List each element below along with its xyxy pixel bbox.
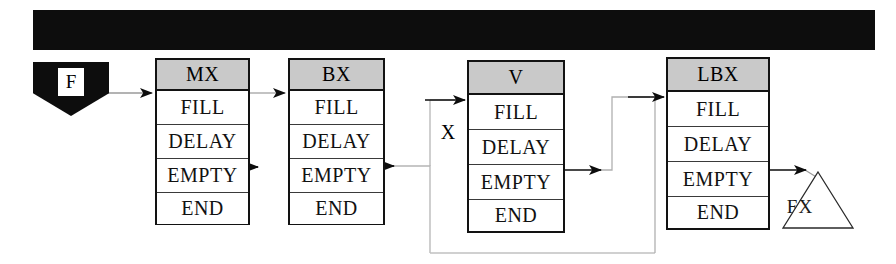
- process-box-mx-row-delay[interactable]: DELAY: [157, 125, 248, 159]
- process-box-bx-row-empty[interactable]: EMPTY: [290, 159, 383, 193]
- process-box-v-row-end[interactable]: END: [469, 200, 563, 231]
- process-box-bx[interactable]: BX FILL DELAY EMPTY END: [288, 58, 385, 225]
- process-box-lbx-row-end[interactable]: END: [668, 197, 768, 228]
- sink-node-fx-label: FX: [787, 196, 813, 218]
- process-box-mx[interactable]: MX FILL DELAY EMPTY END: [155, 58, 250, 225]
- process-box-v-row-empty[interactable]: EMPTY: [469, 165, 563, 200]
- source-node-f-label: F: [33, 68, 109, 96]
- edge-v-to-lbx: [565, 97, 664, 170]
- process-box-v[interactable]: V FILL DELAY EMPTY END: [467, 60, 565, 233]
- process-box-v-row-fill[interactable]: FILL: [469, 95, 563, 130]
- process-box-bx-header: BX: [290, 60, 383, 91]
- process-box-lbx-row-delay[interactable]: DELAY: [668, 127, 768, 162]
- process-box-mx-row-fill[interactable]: FILL: [157, 91, 248, 125]
- process-box-v-row-delay[interactable]: DELAY: [469, 130, 563, 165]
- process-box-lbx-row-fill[interactable]: FILL: [668, 92, 768, 127]
- process-box-bx-row-end[interactable]: END: [290, 193, 383, 224]
- process-box-v-header: V: [469, 62, 563, 95]
- process-box-lbx-header: LBX: [668, 59, 768, 92]
- title-bar-label: X: [434, 119, 462, 146]
- diagram-canvas: X F MX FILL DELAY EMPTY END BX FILL DELA…: [0, 0, 896, 264]
- process-box-lbx[interactable]: LBX FILL DELAY EMPTY END: [666, 57, 770, 230]
- process-box-mx-row-empty[interactable]: EMPTY: [157, 159, 248, 193]
- process-box-mx-header: MX: [157, 60, 248, 91]
- title-bar: [33, 10, 875, 50]
- process-box-mx-row-end[interactable]: END: [157, 193, 248, 224]
- process-box-bx-row-delay[interactable]: DELAY: [290, 125, 383, 159]
- process-box-lbx-row-empty[interactable]: EMPTY: [668, 162, 768, 197]
- process-box-bx-row-fill[interactable]: FILL: [290, 91, 383, 125]
- source-node-f-text: F: [58, 68, 85, 96]
